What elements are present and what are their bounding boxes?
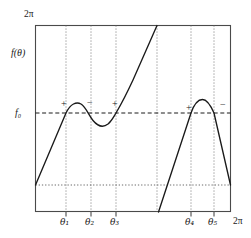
- vertical-gridlines: [66, 26, 214, 213]
- y-axis-title: f(θ): [11, 48, 25, 58]
- figure-container: 2π f(θ) f₀ θ₁ θ₂ θ₃ θ₄ θ₅ 2π + − + + −: [0, 0, 251, 238]
- x-tick-label-theta5: θ₅: [208, 218, 217, 227]
- curve-left-branch: [36, 26, 158, 186]
- x-tick-label-theta4: θ₄: [185, 218, 194, 227]
- x-axis-ticks: [66, 212, 214, 217]
- x-tick-label-theta2: θ₂: [85, 218, 94, 227]
- x-axis-end-label: 2π: [233, 217, 243, 227]
- y-axis-top-label: 2π: [24, 10, 34, 20]
- sign-marker-3: +: [112, 99, 118, 109]
- x-tick-label-theta3: θ₃: [110, 218, 119, 227]
- x-tick-label-theta1: θ₁: [60, 218, 69, 227]
- f0-axis-label: f₀: [15, 108, 21, 118]
- sign-marker-4: +: [186, 103, 192, 113]
- curve-right-branch: [159, 100, 231, 213]
- plot-frame: [36, 26, 231, 212]
- plot-canvas: [0, 0, 251, 238]
- sign-marker-5: −: [220, 100, 226, 110]
- sign-marker-2: −: [87, 98, 93, 108]
- plot-border: [36, 26, 231, 212]
- sign-marker-1: +: [61, 99, 67, 109]
